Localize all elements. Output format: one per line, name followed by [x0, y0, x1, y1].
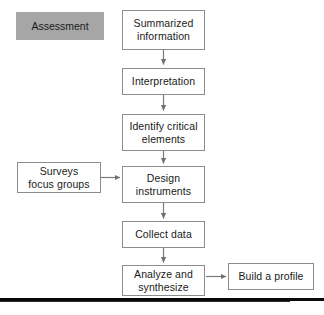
node-design-instruments[interactable]: Design instruments — [122, 166, 205, 203]
flowchart-page: Assessment Summarized information Interp… — [0, 0, 324, 315]
node-surveys-focus-groups[interactable]: Surveys focus groups — [17, 162, 101, 193]
node-build-a-profile-label: Build a profile — [235, 270, 306, 283]
node-interpretation[interactable]: Interpretation — [122, 68, 205, 95]
node-build-a-profile[interactable]: Build a profile — [228, 263, 314, 290]
node-interpretation-label: Interpretation — [129, 75, 198, 88]
legend-assessment-label: Assessment — [31, 20, 88, 33]
node-design-instruments-label: Design instruments — [133, 172, 194, 198]
node-summarized-information[interactable]: Summarized information — [122, 10, 205, 50]
node-analyze-and-synthesize[interactable]: Analyze and synthesize — [122, 265, 205, 296]
bottom-divider-rule-secondary — [0, 301, 290, 302]
legend-assessment-box: Assessment — [16, 12, 104, 40]
node-identify-critical-elements[interactable]: Identify critical elements — [122, 114, 205, 151]
node-collect-data-label: Collect data — [132, 228, 195, 241]
node-collect-data[interactable]: Collect data — [122, 221, 205, 248]
node-summarized-information-label: Summarized information — [131, 17, 197, 43]
node-surveys-focus-groups-label: Surveys focus groups — [25, 165, 92, 191]
node-analyze-and-synthesize-label: Analyze and synthesize — [131, 268, 196, 294]
node-identify-critical-elements-label: Identify critical elements — [126, 120, 200, 146]
